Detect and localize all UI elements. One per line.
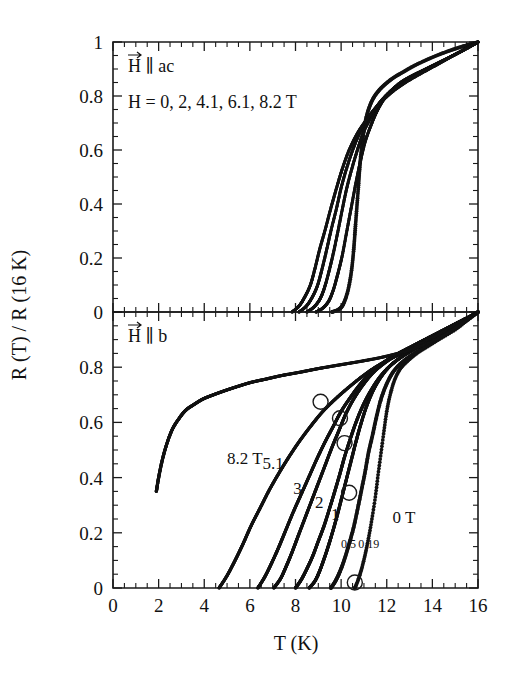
x-tick-label: 6 <box>245 595 255 616</box>
open-circle-marker <box>313 394 328 409</box>
data-series <box>308 310 480 589</box>
bottom-panel-data-points <box>155 310 480 590</box>
x-tick-label: 0 <box>108 595 118 616</box>
figure-root: 00.20.40.60.81 H ∥ ac H = 0, 2, 4.1, 6.1… <box>0 0 507 675</box>
x-tick-label: 10 <box>332 595 351 616</box>
bottom-panel: 024681012141600.20.40.60.8 8.2 T5.13210.… <box>79 310 487 616</box>
x-tick-label: 2 <box>154 595 164 616</box>
data-series <box>305 41 479 314</box>
y-tick-label: 0.8 <box>79 86 103 107</box>
x-tick-label: 8 <box>291 595 301 616</box>
y-tick-label: 0 <box>94 578 104 599</box>
curve-label: 2 <box>315 493 324 512</box>
y-axis-title: R (T) / R (16 K) <box>8 250 31 381</box>
curve-label: 0 T <box>393 508 416 527</box>
x-tick-label: 4 <box>200 595 210 616</box>
y-tick-label: 0.8 <box>79 357 103 378</box>
y-tick-label: 0 <box>94 302 104 323</box>
curve-label: 1 <box>331 505 340 524</box>
curve-label: 0.19 <box>358 537 379 551</box>
y-tick-label: 0.4 <box>79 468 103 489</box>
curve-label: 5.1 <box>262 454 283 473</box>
top-panel-frame <box>113 42 478 312</box>
x-tick-label: 12 <box>377 595 396 616</box>
y-tick-label: 0.6 <box>79 140 103 161</box>
x-axis-title: T (K) <box>274 632 319 655</box>
y-tick-label: 0.6 <box>79 412 103 433</box>
y-tick-label: 0.4 <box>79 194 103 215</box>
resistive-transition-chart: 00.20.40.60.81 H ∥ ac H = 0, 2, 4.1, 6.1… <box>0 0 507 675</box>
data-series <box>291 41 480 314</box>
curve-label: 3 <box>293 479 302 498</box>
top-panel-orientation-annotation: H ∥ ac <box>128 56 174 76</box>
x-tick-label: 14 <box>423 595 443 616</box>
curve-label: 8.2 T <box>227 449 263 468</box>
top-panel: 00.20.40.60.81 H ∥ ac H = 0, 2, 4.1, 6.1… <box>79 32 479 323</box>
x-tick-label: 16 <box>469 595 488 616</box>
top-panel-field-annotation: H = 0, 2, 4.1, 6.1, 8.2 T <box>128 92 297 112</box>
bottom-panel-tick-labels: 024681012141600.20.40.60.8 <box>79 357 487 616</box>
y-tick-label: 0.2 <box>79 523 103 544</box>
top-panel-data-points <box>291 40 480 314</box>
y-tick-label: 1 <box>94 32 104 53</box>
top-panel-ticks <box>113 42 478 312</box>
y-tick-label: 0.2 <box>79 248 103 269</box>
top-panel-tick-labels: 00.20.40.60.81 <box>79 32 103 323</box>
curve-label: 0.5 <box>341 537 356 551</box>
bottom-panel-orientation-annotation: H ∥ b <box>128 326 167 346</box>
